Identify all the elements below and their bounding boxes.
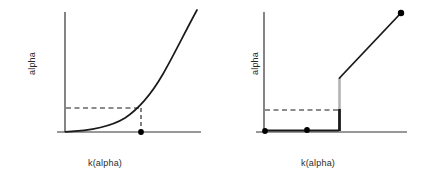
endpoint-marker [398, 10, 404, 16]
y-axis-label: alpha [250, 52, 260, 75]
x-axis-label: k(alpha) [213, 158, 421, 168]
chart-panel-right: alpha k(alpha) [211, 0, 421, 179]
x-axis-marker [138, 129, 144, 135]
step-marker [304, 127, 310, 133]
left-panel-plot [0, 0, 210, 179]
figure-container: alpha k(alpha) alpha k(alpha) [0, 0, 421, 179]
convex-curve [66, 10, 198, 132]
x-axis-label: k(alpha) [0, 158, 210, 168]
rising-line-segment [340, 14, 401, 78]
chart-panel-left: alpha k(alpha) [0, 0, 210, 179]
y-axis-label: alpha [27, 52, 37, 75]
origin-marker [262, 128, 268, 134]
right-panel-plot [211, 0, 421, 179]
